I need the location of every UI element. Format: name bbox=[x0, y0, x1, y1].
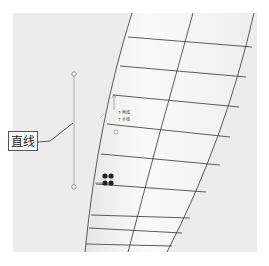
callout-leader bbox=[38, 123, 73, 142]
curved-surface[interactable] bbox=[85, 13, 254, 252]
surface-canvas[interactable] bbox=[0, 0, 269, 266]
annotation-line-1: 7 角线 bbox=[118, 110, 130, 115]
callout-label: 直线 bbox=[8, 131, 38, 151]
line-endpoint-top-icon[interactable] bbox=[72, 72, 76, 76]
annotation-line-2: 7 水线 bbox=[118, 117, 130, 122]
line-endpoint-bottom-icon[interactable] bbox=[72, 185, 76, 189]
